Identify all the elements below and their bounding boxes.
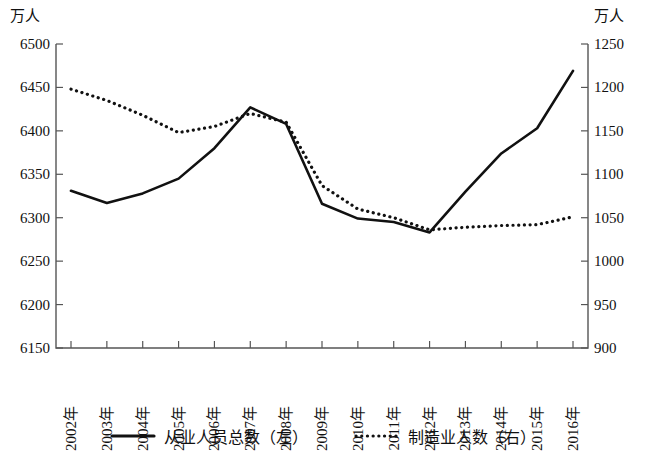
legend-label: 制造业人数（右）	[408, 424, 536, 448]
legend-solid-line-icon	[110, 430, 156, 442]
legend-item[interactable]: 从业人员总数（左）	[110, 424, 308, 448]
chart-legend: 从业人员总数（左）制造业人数（右）	[0, 424, 645, 448]
chart-container: 万人 万人 65006450640063506300625062006150 1…	[0, 0, 645, 453]
legend-item[interactable]: 制造业人数（右）	[354, 424, 536, 448]
series-line-2	[71, 89, 573, 230]
plot-area	[0, 0, 645, 453]
series-layer	[71, 71, 573, 233]
series-line-1	[71, 71, 573, 233]
legend-label: 从业人员总数（左）	[164, 424, 308, 448]
legend-dotted-line-icon	[354, 430, 400, 442]
